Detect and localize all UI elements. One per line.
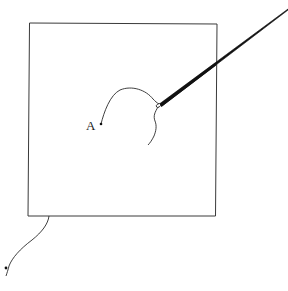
thread-curve-lower	[148, 107, 158, 145]
diagram-canvas	[0, 0, 288, 291]
thread-outside	[6, 216, 49, 276]
point-a-dot	[100, 123, 103, 126]
thread-end-knot	[5, 267, 8, 270]
diagram-figure: A	[0, 0, 288, 291]
square-sheet	[28, 23, 217, 216]
needle-rod-thick-section	[161, 63, 217, 107]
point-a-label: A	[86, 119, 95, 132]
thread-curve-upper	[101, 88, 159, 124]
